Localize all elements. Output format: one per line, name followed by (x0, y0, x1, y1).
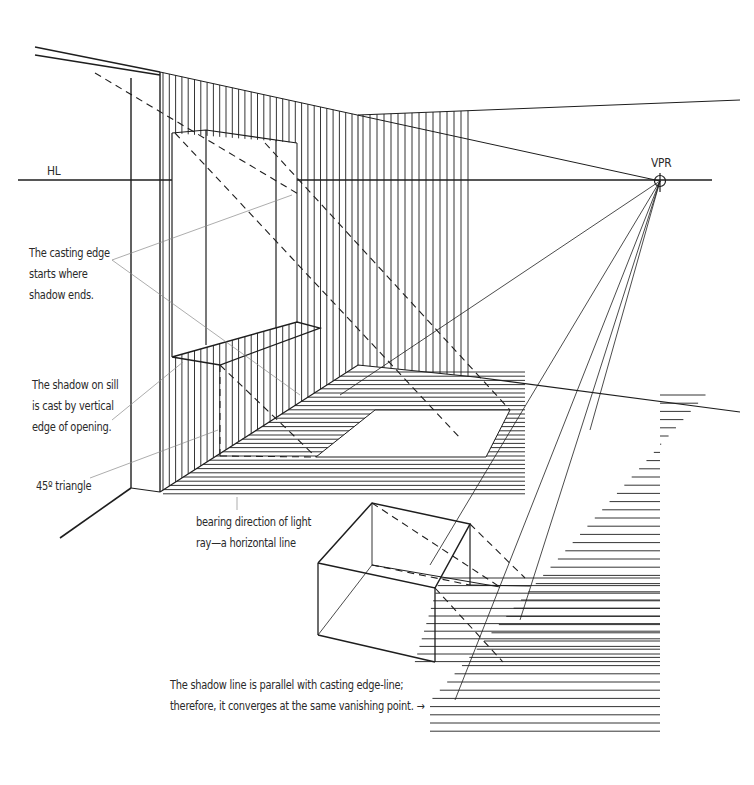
annotation-line: starts where (29, 264, 110, 285)
annotation-casting-edge: The casting edge starts where shadow end… (29, 243, 110, 306)
annotation-line: ray—a horizontal line (196, 533, 311, 554)
annotation-sill-shadow: The shadow on sill is cast by vertical e… (32, 375, 119, 438)
annotation-line: shadow ends. (29, 285, 110, 306)
annotation-shadow-line-parallel: The shadow line is parallel with casting… (170, 675, 424, 717)
annotation-line: is cast by vertical (32, 396, 119, 417)
annotation-line: edge of opening. (32, 417, 119, 438)
annotation-line: The shadow line is parallel with casting… (170, 675, 424, 696)
back-wall-vertical-hatching (363, 111, 468, 377)
horizon-line-label: HL (47, 160, 60, 181)
annotation-45-triangle: 45º triangle (36, 476, 91, 497)
annotation-line: therefore, it converges at the same vani… (170, 696, 424, 717)
annotation-line: 45º triangle (36, 476, 91, 497)
construction-lines (18, 47, 740, 700)
annotation-line: bearing direction of light (196, 512, 311, 533)
annotation-line: The casting edge (29, 243, 110, 264)
vanishing-point-marker (655, 173, 666, 192)
perspective-shadow-diagram: HL VPR The casting edge starts where sha… (0, 0, 754, 785)
annotation-bearing-direction: bearing direction of light ray—a horizon… (196, 512, 311, 554)
vanishing-point-label: VPR (651, 152, 671, 173)
annotation-line: The shadow on sill (32, 375, 119, 396)
